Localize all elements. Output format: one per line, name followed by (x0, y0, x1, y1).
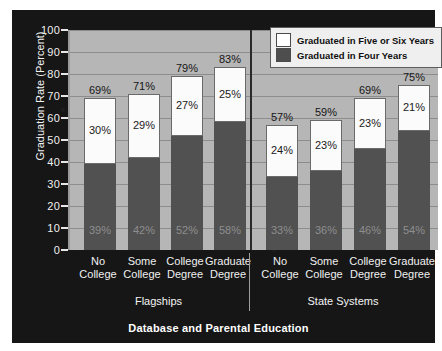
bar-segment-five-or-six-years[interactable]: 24% (266, 125, 298, 178)
bar-segment-four-years[interactable]: 36% (310, 171, 342, 250)
y-tick-mark (61, 205, 68, 207)
y-tick-mark (61, 249, 68, 251)
chart-caption: Database and Parental Education (12, 322, 425, 334)
bar-segment-four-years[interactable]: 33% (266, 177, 298, 250)
legend-swatch-four-years (276, 48, 291, 62)
bar-label-four-years: 39% (84, 224, 116, 236)
y-tick-label: 0 (54, 244, 60, 256)
y-tick-label: 30 (47, 178, 60, 190)
legend-label-five-or-six-years: Graduated in Five or Six Years (297, 35, 434, 46)
y-tick-mark (61, 73, 68, 75)
y-tick-mark (61, 51, 68, 53)
bar-segment-four-years[interactable]: 54% (398, 131, 430, 250)
bar-label-four-years: 46% (354, 224, 386, 236)
y-tick-label: 50 (47, 134, 60, 146)
bar-segment-five-or-six-years[interactable]: 29% (128, 94, 160, 158)
bar-label-total: 79% (165, 62, 209, 74)
bar-5[interactable]: 33%24%57% (266, 125, 298, 250)
legend-item-five-or-six-years: Graduated in Five or Six Years (276, 33, 434, 47)
bar-label-five-or-six-years: 24% (267, 144, 297, 156)
bar-label-five-or-six-years: 25% (215, 88, 245, 100)
bar-8[interactable]: 54%21%75% (398, 85, 430, 250)
y-tick-label: 80 (47, 68, 60, 80)
group-label-flagships: Flagships (68, 295, 249, 307)
bar-label-five-or-six-years: 29% (129, 119, 159, 131)
x-tick-label-line1: Graduate (202, 255, 254, 268)
x-tick-label: GraduateDegree (386, 255, 438, 281)
bar-segment-five-or-six-years[interactable]: 23% (354, 98, 386, 149)
chart-panel: Graduation Rate (Percent) 01020304050607… (12, 10, 435, 343)
bar-label-five-or-six-years: 21% (399, 101, 429, 113)
gridline (70, 74, 438, 75)
bar-label-four-years: 36% (310, 224, 342, 236)
bar-label-four-years: 58% (214, 224, 246, 236)
bar-label-total: 75% (392, 71, 436, 83)
bar-7[interactable]: 46%23%69% (354, 98, 386, 250)
bar-label-total: 59% (304, 106, 348, 118)
y-tick-mark (61, 29, 68, 31)
y-tick-label: 70 (47, 90, 60, 102)
bar-segment-five-or-six-years[interactable]: 23% (310, 120, 342, 171)
bar-label-total: 83% (208, 53, 252, 65)
bar-label-four-years: 33% (266, 224, 298, 236)
bar-3[interactable]: 52%27%79% (171, 76, 203, 250)
bar-segment-five-or-six-years[interactable]: 25% (214, 67, 246, 122)
x-tick-label: GraduateDegree (202, 255, 254, 281)
bar-label-five-or-six-years: 23% (355, 117, 385, 129)
bar-2[interactable]: 42%29%71% (128, 94, 160, 250)
bar-1[interactable]: 39%30%69% (84, 98, 116, 250)
bar-segment-five-or-six-years[interactable]: 21% (398, 85, 430, 131)
y-tick-label: 20 (47, 200, 60, 212)
bar-segment-five-or-six-years[interactable]: 27% (171, 76, 203, 135)
bar-label-total: 57% (260, 111, 304, 123)
y-tick-mark (61, 95, 68, 97)
bar-4[interactable]: 58%25%83% (214, 67, 246, 250)
bar-label-total: 69% (348, 84, 392, 96)
x-tick-label-line2: Degree (202, 268, 254, 281)
legend-swatch-five-or-six-years (276, 33, 291, 47)
y-tick-mark (61, 117, 68, 119)
bar-segment-five-or-six-years[interactable]: 30% (84, 98, 116, 164)
bar-segment-four-years[interactable]: 46% (354, 149, 386, 250)
bar-segment-four-years[interactable]: 39% (84, 164, 116, 250)
bar-label-four-years: 54% (398, 224, 430, 236)
y-axis: Graduation Rate (Percent) 01020304050607… (12, 30, 68, 250)
y-tick-label: 100 (41, 24, 60, 36)
bar-label-four-years: 42% (128, 224, 160, 236)
bar-label-five-or-six-years: 27% (172, 99, 202, 111)
y-tick-mark (61, 161, 68, 163)
legend-label-four-years: Graduated in Four Years (297, 50, 407, 61)
bar-segment-four-years[interactable]: 52% (171, 136, 203, 250)
bar-segment-four-years[interactable]: 42% (128, 158, 160, 250)
y-tick-mark (61, 139, 68, 141)
chart-legend: Graduated in Five or Six Years Graduated… (270, 27, 442, 68)
y-tick-mark (61, 227, 68, 229)
bar-label-total: 69% (78, 84, 122, 96)
y-tick-label: 60 (47, 112, 60, 124)
y-tick-label: 90 (47, 46, 60, 58)
bar-label-total: 71% (122, 80, 166, 92)
y-tick-label: 10 (47, 222, 60, 234)
x-tick-label-line2: Degree (386, 268, 438, 281)
bar-6[interactable]: 36%23%59% (310, 120, 342, 250)
bar-label-five-or-six-years: 23% (311, 139, 341, 151)
bar-label-five-or-six-years: 30% (85, 124, 115, 136)
legend-item-four-years: Graduated in Four Years (276, 48, 434, 62)
bar-segment-four-years[interactable]: 58% (214, 122, 246, 250)
group-label-state-systems: State Systems (250, 295, 436, 307)
bar-label-four-years: 52% (171, 224, 203, 236)
y-tick-mark (61, 183, 68, 185)
x-axis: NoCollegeSomeCollegeCollegeDegreeGraduat… (68, 253, 436, 293)
y-tick-label: 40 (47, 156, 60, 168)
x-tick-label-line1: Graduate (386, 255, 438, 268)
